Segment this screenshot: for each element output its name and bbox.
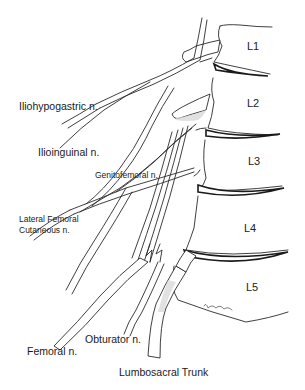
nerve-label-ilioinguinal: Ilioinguinal n.	[38, 147, 99, 159]
artist-signature	[204, 304, 232, 310]
nerve-label-iliohypogastric: Iliohypogastric n.	[19, 101, 98, 113]
lumbar-plexus-illustration	[0, 0, 305, 390]
vertebra-l3	[200, 140, 282, 191]
nerve-bundles	[30, 18, 212, 358]
vertebra-label-l2: L2	[247, 97, 259, 109]
vertebra-l4	[186, 196, 288, 254]
vertebra-label-l5: L5	[246, 281, 258, 293]
vertebra-l1	[214, 25, 272, 74]
nerve-label-lateral-femoral-cutaneous-line2: Cutaneous n.	[19, 226, 70, 235]
nerve-label-femoral: Femoral n.	[27, 346, 77, 358]
nerve-label-obturator: Obturator n.	[85, 334, 141, 346]
disc-l2-l3	[206, 130, 280, 138]
nerve-label-genitofemoral: Genitofemoral n.	[95, 171, 158, 180]
vertebra-label-l1: L1	[247, 40, 259, 52]
nerve-label-lumbosacral-trunk: Lumbosacral Trunk	[119, 367, 208, 379]
vertebra-label-l3: L3	[248, 155, 260, 167]
vertebra-label-l4: L4	[244, 222, 256, 234]
nerve-label-lateral-femoral-cutaneous-line1: Lateral Femoral	[19, 215, 79, 224]
disc-l1-l2	[214, 64, 268, 76]
vertebra-l2	[208, 78, 278, 135]
vertebra-l5	[173, 266, 288, 322]
